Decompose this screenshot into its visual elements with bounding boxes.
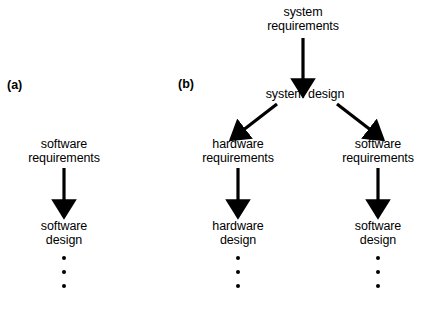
dot: [376, 256, 380, 260]
panel-label-b: (b): [178, 77, 194, 91]
system-design-node: system design: [266, 88, 345, 102]
hardware-design-node: hardware design: [212, 220, 263, 247]
diagram-canvas: (a) (b) software requirements software d…: [0, 0, 441, 312]
software-design-node: software design: [41, 220, 87, 247]
dot: [62, 270, 66, 274]
software-design-node: software design: [355, 220, 401, 247]
dot: [62, 256, 66, 260]
arrow-system-design-to-software-requirements: [337, 104, 372, 131]
dot: [236, 270, 240, 274]
dot: [62, 284, 66, 288]
dot: [376, 284, 380, 288]
arrow-system-design-to-hardware-requirements: [242, 104, 277, 131]
hardware-requirements-node: hardware requirements: [202, 138, 274, 165]
continuation-dots: [376, 256, 380, 288]
continuation-dots: [236, 256, 240, 288]
panel-label-a: (a): [7, 78, 22, 92]
software-requirements-node: software requirements: [28, 138, 100, 165]
dot: [376, 270, 380, 274]
software-requirements-node: software requirements: [342, 138, 414, 165]
system-requirements-node: system requirements: [267, 6, 339, 33]
continuation-dots: [62, 256, 66, 288]
dot: [236, 284, 240, 288]
dot: [236, 256, 240, 260]
